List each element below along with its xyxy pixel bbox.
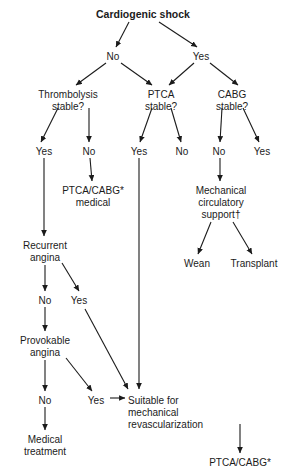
node-mechanical-support-line3: support†	[202, 209, 241, 220]
node-suitable-line1: Suitable for	[128, 395, 179, 406]
node-ptca-cabg-medical-line2: medical	[76, 197, 110, 208]
node-transplant: Transplant	[231, 258, 278, 269]
node-recurrent-no: No	[39, 295, 52, 306]
node-suitable-line3: revascularization	[128, 419, 203, 430]
node-recurrent-angina-line1: Recurrent	[23, 240, 67, 251]
node-medical-treatment-line2: treatment	[24, 446, 66, 457]
edge-no-to-ptca	[121, 63, 152, 85]
node-provokable-angina-line2: angina	[30, 347, 60, 358]
node-cabg-no: No	[213, 146, 226, 157]
node-cardiogenic-shock: Cardiogenic shock	[96, 8, 190, 20]
edge-layer	[41, 22, 259, 453]
node-mechanical-support-line2: circulatory	[198, 197, 244, 208]
edge-yes-to-cabg	[210, 63, 238, 85]
node-ptca-no: No	[176, 146, 189, 157]
edge-root-to-no	[116, 22, 129, 47]
edge-yes-to-ptca	[169, 63, 194, 85]
node-suitable-line2: mechanical	[128, 407, 179, 418]
edge-mechsupport-to-wean	[198, 222, 211, 254]
node-mechanical-support-line1: Mechanical	[196, 185, 247, 196]
node-provokable-no: No	[39, 395, 52, 406]
edge-root-to-yes	[159, 22, 197, 47]
edge-thrombno-to-ptcacabgmed	[90, 158, 92, 181]
node-recurrent-angina-line2: angina	[30, 252, 60, 263]
node-ptca-cabg-medical-line1: PTCA/CABG*	[62, 185, 124, 196]
node-thrombolysis-yes: Yes	[36, 146, 52, 157]
flowchart-canvas: Cardiogenic shock No Yes Thrombolysis st…	[0, 0, 292, 473]
flowchart-cardiogenic-shock: Cardiogenic shock No Yes Thrombolysis st…	[0, 0, 292, 473]
node-provokable-angina-line1: Provokable	[20, 335, 70, 346]
edge-ptca-to-yes	[140, 108, 152, 142]
edge-thrombolysis-to-yes	[41, 108, 58, 142]
node-cabg-stable-line2: stable?	[216, 101, 249, 112]
edge-mechsupport-to-transplant	[233, 222, 252, 254]
node-final-ptca-cabg: PTCA/CABG*	[209, 457, 271, 468]
edge-cabg-to-no	[220, 108, 222, 142]
node-root-yes: Yes	[193, 51, 209, 62]
node-medical-treatment-line1: Medical	[28, 434, 62, 445]
node-recurrent-yes: Yes	[71, 295, 87, 306]
node-cabg-stable-line1: CABG	[218, 89, 247, 100]
edge-cabg-to-yes	[243, 108, 259, 142]
node-provokable-yes: Yes	[88, 395, 104, 406]
node-thrombolysis-stable-line1: Thrombolysis	[38, 89, 97, 100]
node-wean: Wean	[184, 258, 210, 269]
edge-recurrentangina-to-yes	[62, 263, 79, 291]
node-layer: Cardiogenic shock No Yes Thrombolysis st…	[20, 8, 278, 468]
node-ptca-yes: Yes	[131, 146, 147, 157]
node-cabg-yes: Yes	[254, 146, 270, 157]
node-thrombolysis-no: No	[83, 146, 96, 157]
edge-no-to-thrombolysis	[76, 63, 106, 85]
node-ptca-stable-line2: stable?	[145, 101, 178, 112]
node-ptca-stable-line1: PTCA	[148, 89, 175, 100]
node-root-no: No	[107, 51, 120, 62]
node-thrombolysis-stable-line2: stable?	[52, 101, 85, 112]
edge-ptca-to-no	[171, 108, 181, 142]
edge-recyes-to-suitable	[85, 309, 128, 389]
edge-provokableangina-to-yes	[66, 358, 92, 391]
